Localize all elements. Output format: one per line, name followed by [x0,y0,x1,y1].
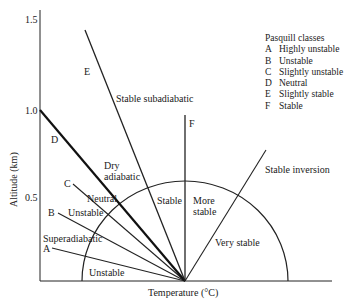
legend-pasquill-classes: Pasquill classes AHighly unstable BUnsta… [265,33,343,112]
pasquill-stability-diagram: 1.5 1.0 0.5 Altitude (km) Temperature (°… [0,0,350,305]
legend-label: Stable [279,101,303,112]
y-tick-1-5: 1.5 [25,14,38,25]
annotation-dry: Dry [104,160,120,171]
legend-code: D [265,78,279,89]
region-more-stable: stable [193,206,216,217]
y-tick-0-5: 0.5 [25,192,38,203]
region-unstable: Unstable [89,267,125,278]
y-axis-label: Altitude (km) [8,152,19,207]
legend-label: Slightly unstable [279,67,343,78]
annotation-unstable-line: Unstable [68,207,104,218]
label-b: B [48,207,55,218]
legend-label: Highly unstable [279,44,339,55]
legend-title: Pasquill classes [265,33,343,44]
legend-item: AHighly unstable [265,44,343,55]
annotation-neutral: Neutral [87,193,117,204]
legend-code: A [265,44,279,55]
x-axis-label: Temperature (°C) [148,287,218,298]
legend-item: CSlightly unstable [265,67,343,78]
label-d: D [51,134,58,145]
legend-item: BUnstable [265,56,343,67]
legend-item: ESlightly stable [265,89,343,100]
legend-code: C [265,67,279,78]
annotation-adiabatic: adiabatic [104,171,140,182]
legend-item: DNeutral [265,78,343,89]
label-c: C [64,178,71,189]
region-more: More [193,195,215,206]
annotation-stable-subadiabatic: Stable subadiabatic [116,93,193,104]
annotation-stable-inversion: Stable inversion [265,164,330,175]
label-e: E [84,66,90,77]
legend-label: Neutral [279,78,308,89]
legend-label: Slightly stable [279,89,334,100]
label-f: F [189,118,195,129]
y-tick-1-0: 1.0 [25,105,38,116]
label-a: A [43,243,50,254]
annotation-superadiabatic: Superadiabatic [43,233,102,244]
region-very-stable: Very stable [215,237,260,248]
legend-code: B [265,56,279,67]
legend-code: E [265,89,279,100]
legend-item: FStable [265,101,343,112]
legend-code: F [265,101,279,112]
region-stable: Stable [157,195,182,206]
legend-label: Unstable [279,56,313,67]
